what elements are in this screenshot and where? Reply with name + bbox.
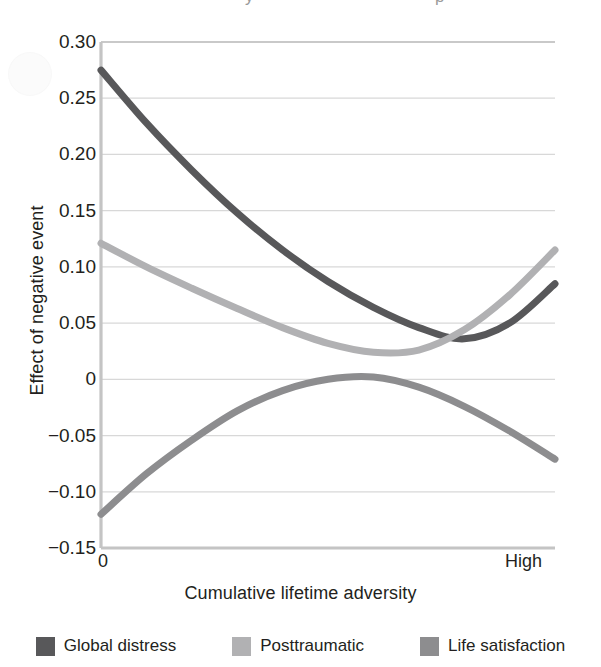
y-axis-tick-label: 0.20 xyxy=(10,143,96,165)
legend-label: Life satisfaction xyxy=(448,636,565,656)
y-axis-tick-label: −0.15 xyxy=(10,537,96,559)
y-axis-tick-label: 0.25 xyxy=(10,87,96,109)
chart-legend: Global distressPosttraumaticLife satisfa… xyxy=(0,636,601,656)
x-axis-tick-label-max: High xyxy=(505,551,542,572)
y-axis-tick-label: 0.10 xyxy=(10,256,96,278)
legend-label: Global distress xyxy=(64,636,176,656)
x-axis-title: Cumulative lifetime adversity xyxy=(0,583,601,604)
legend-swatch-icon xyxy=(36,637,55,656)
series-line-0 xyxy=(101,70,555,339)
legend-item[interactable]: Global distress xyxy=(36,636,176,656)
y-axis-tick-label: 0.30 xyxy=(10,31,96,53)
legend-label: Posttraumatic xyxy=(260,636,364,656)
chart-figure: y p Effect of negative event 0.300.250.2… xyxy=(0,0,601,667)
y-axis-tick-label: −0.05 xyxy=(10,425,96,447)
legend-swatch-icon xyxy=(232,637,251,656)
y-axis-tick-labels: 0.300.250.200.150.100.050−0.05−0.10−0.15 xyxy=(0,0,96,600)
y-axis-tick-label: 0.15 xyxy=(10,200,96,222)
y-axis-tick-label: −0.10 xyxy=(10,481,96,503)
legend-item[interactable]: Posttraumatic xyxy=(232,636,364,656)
y-axis-tick-label: 0.05 xyxy=(10,312,96,334)
legend-swatch-icon xyxy=(420,637,439,656)
legend-item[interactable]: Life satisfaction xyxy=(420,636,565,656)
plot-area-wrapper: 0.300.250.200.150.100.050−0.05−0.10−0.15… xyxy=(0,0,601,600)
y-axis-tick-label: 0 xyxy=(10,368,96,390)
series-line-2 xyxy=(101,377,555,515)
x-axis-tick-label-min: 0 xyxy=(98,551,108,572)
